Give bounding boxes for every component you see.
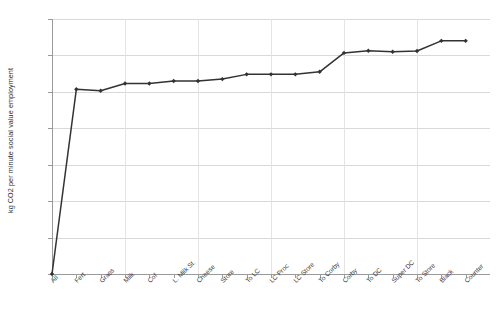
y-axis-line bbox=[52, 19, 53, 274]
x-tick-label: All bbox=[49, 274, 59, 284]
y-axis-ticks: 010203040506070 bbox=[0, 19, 504, 274]
line-chart: kg CO2 per minute social value employmen… bbox=[0, 0, 504, 316]
